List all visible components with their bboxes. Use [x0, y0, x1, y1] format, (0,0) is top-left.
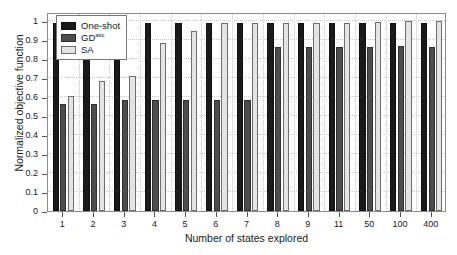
- y-tick-label: 0: [33, 207, 38, 216]
- legend-label-superscript: asc: [95, 31, 104, 37]
- bar-sa-2: [99, 81, 105, 211]
- legend-item-gd: GDasc: [61, 32, 120, 43]
- bar-one-shot-9: [298, 23, 304, 211]
- bar-sa-400: [436, 21, 442, 211]
- legend-item-sa: SA: [61, 44, 120, 55]
- bar-sa-50: [375, 22, 381, 211]
- bar-gd-3: [122, 100, 128, 211]
- bar-sa-7: [252, 23, 258, 211]
- bar-sa-8: [283, 23, 289, 211]
- bar-gd-2: [91, 104, 97, 211]
- bar-gd-4: [152, 100, 158, 211]
- x-tick-mark: [185, 212, 186, 217]
- bar-one-shot-7: [237, 23, 243, 211]
- x-tick-mark: [400, 212, 401, 217]
- bar-sa-11: [344, 23, 350, 211]
- y-tick-label: 0.8: [25, 55, 38, 64]
- x-tick-mark: [154, 212, 155, 217]
- bar-one-shot-100: [390, 23, 396, 211]
- bar-gd-5: [183, 100, 189, 211]
- y-tick-label: 0.5: [25, 112, 38, 121]
- x-tick-label: 400: [416, 219, 446, 229]
- x-tick-mark: [93, 212, 94, 217]
- y-tick-label: 0.4: [25, 131, 38, 140]
- x-tick-mark: [277, 212, 278, 217]
- y-tick-label: 0.7: [25, 74, 38, 83]
- bar-gd-11: [336, 47, 342, 212]
- y-tick-mark: [42, 212, 47, 213]
- legend-label: GDasc: [81, 33, 105, 43]
- bar-one-shot-8: [267, 23, 273, 211]
- y-tick-label: 0.6: [25, 93, 38, 102]
- bar-sa-100: [405, 21, 411, 211]
- x-tick-label: 11: [324, 219, 354, 229]
- legend-item-one-shot: One-shot: [61, 20, 120, 31]
- x-tick-label: 1: [47, 219, 77, 229]
- y-tick-label: 1: [33, 17, 38, 26]
- bar-one-shot-11: [329, 23, 335, 211]
- bar-sa-5: [191, 31, 197, 211]
- bar-sa-9: [313, 23, 319, 211]
- y-axis-title: Normalized objective function: [13, 0, 25, 208]
- legend-swatch-icon: [61, 46, 76, 54]
- x-tick-label: 5: [170, 219, 200, 229]
- bar-one-shot-50: [359, 23, 365, 211]
- x-tick-mark: [216, 212, 217, 217]
- bar-one-shot-5: [175, 23, 181, 211]
- x-tick-label: 50: [354, 219, 384, 229]
- legend-label: SA: [81, 45, 94, 55]
- x-tick-label: 100: [385, 219, 415, 229]
- bar-sa-6: [221, 23, 227, 211]
- x-tick-mark: [124, 212, 125, 217]
- x-tick-mark: [369, 212, 370, 217]
- x-tick-mark: [431, 212, 432, 217]
- y-tick-label: 0.2: [25, 169, 38, 178]
- bar-gd-100: [398, 46, 404, 211]
- chart-legend: One-shotGDascSA: [56, 15, 127, 60]
- legend-label: One-shot: [81, 21, 120, 31]
- x-tick-mark: [62, 212, 63, 217]
- bar-gd-400: [429, 47, 435, 212]
- y-tick-label: 0.1: [25, 188, 38, 197]
- bar-gd-8: [275, 47, 281, 212]
- bar-gd-6: [214, 100, 220, 211]
- bar-chart-figure: Normalized objective function 00.10.20.3…: [0, 0, 457, 255]
- y-tick-label: 0.3: [25, 150, 38, 159]
- bar-one-shot-4: [145, 23, 151, 211]
- x-tick-mark: [247, 212, 248, 217]
- x-tick-label: 9: [293, 219, 323, 229]
- bar-one-shot-6: [206, 23, 212, 211]
- x-tick-mark: [308, 212, 309, 217]
- bar-gd-9: [306, 47, 312, 212]
- bar-sa-3: [129, 76, 135, 211]
- x-tick-mark: [339, 212, 340, 217]
- x-axis-title: Number of states explored: [47, 232, 446, 244]
- x-tick-label: 2: [78, 219, 108, 229]
- x-tick-label: 7: [232, 219, 262, 229]
- bar-sa-1: [68, 96, 74, 211]
- bar-gd-50: [367, 47, 373, 212]
- x-tick-label: 6: [201, 219, 231, 229]
- bar-gd-7: [244, 100, 250, 211]
- bar-sa-4: [160, 43, 166, 211]
- legend-swatch-icon: [61, 22, 76, 30]
- x-tick-label: 4: [139, 219, 169, 229]
- bar-gd-1: [60, 104, 66, 211]
- x-tick-label: 8: [262, 219, 292, 229]
- y-tick-label: 0.9: [25, 36, 38, 45]
- bar-one-shot-400: [421, 23, 427, 211]
- legend-swatch-icon: [61, 34, 76, 42]
- x-tick-label: 3: [109, 219, 139, 229]
